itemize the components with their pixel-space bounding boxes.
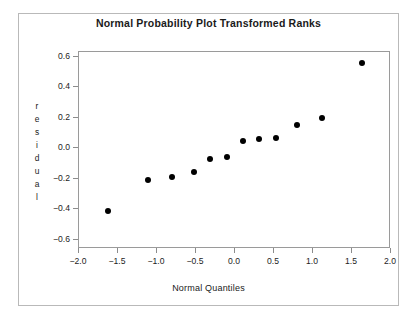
x-tick-label: 1.5 [345,256,357,266]
data-point [224,154,230,160]
x-tick-mark [78,248,79,253]
data-point [319,115,325,121]
y-tick-label: 0.0 [58,142,70,152]
y-tick-label: 0.6 [58,51,70,61]
x-tick-label: 0.5 [267,256,279,266]
y-tick-label: −0.6 [53,234,70,244]
data-point [145,177,151,183]
data-point [105,208,111,214]
x-tick-mark [117,248,118,253]
x-tick-label: 1.0 [306,256,318,266]
data-point [359,60,365,66]
x-tick-label: 2.0 [384,256,396,266]
x-tick-label: −0.5 [187,256,204,266]
x-tick-label: 0.0 [228,256,240,266]
plot-data-area [79,52,389,247]
x-tick-label: −2.0 [70,256,87,266]
x-tick-mark [390,248,391,253]
x-axis-title: Normal Quantiles [0,283,417,293]
y-axis: 0.60.40.20.0−0.2−0.4−0.6 [0,51,78,250]
y-tick-label: −0.4 [53,203,70,213]
x-tick-label: −1.5 [109,256,126,266]
y-tick-label: 0.4 [58,81,70,91]
data-point [207,156,213,162]
data-point [169,174,175,180]
data-point [273,135,279,141]
data-point [240,138,246,144]
x-tick-mark [273,248,274,253]
data-point [191,169,197,175]
y-tick-label: −0.2 [53,173,70,183]
x-tick-mark [312,248,313,253]
chart-title: Normal Probability Plot Transformed Rank… [0,17,417,29]
x-tick-mark [156,248,157,253]
normal-probability-plot-figure: Normal Probability Plot Transformed Rank… [0,0,417,321]
x-tick-mark [195,248,196,253]
y-tick-label: 0.2 [58,112,70,122]
data-point [256,136,262,142]
x-tick-mark [234,248,235,253]
plot-panel [78,51,390,248]
x-axis: −2.0−1.5−1.0−0.50.00.51.01.52.0 [78,248,391,278]
data-point [294,122,300,128]
x-tick-mark [351,248,352,253]
x-tick-label: −1.0 [148,256,165,266]
